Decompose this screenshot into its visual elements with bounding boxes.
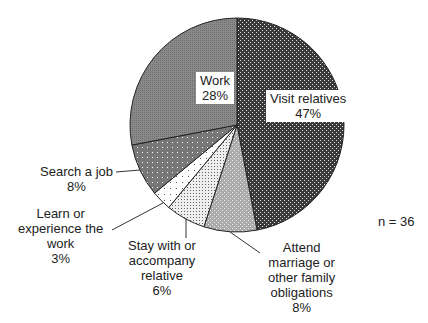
label-value: 3% bbox=[18, 251, 103, 266]
label-visit-relatives: Visit relatives 47% bbox=[266, 90, 350, 122]
label-text: Search a job bbox=[40, 164, 113, 179]
label-text: Work bbox=[200, 73, 230, 88]
label-work: Work 28% bbox=[196, 72, 234, 104]
label-value: 6% bbox=[128, 283, 196, 298]
leader-learn bbox=[112, 203, 163, 230]
label-search-job: Search a job 8% bbox=[40, 164, 113, 194]
label-text: Stay with or bbox=[128, 238, 196, 253]
label-stay-relative: Stay with or accompany relative 6% bbox=[128, 238, 196, 298]
leader-attend bbox=[230, 232, 260, 253]
label-text: Learn or bbox=[18, 206, 103, 221]
label-text: accompany bbox=[128, 253, 196, 268]
label-text: work bbox=[18, 236, 103, 251]
slice-visit-relatives bbox=[237, 18, 344, 230]
label-value: 8% bbox=[40, 179, 113, 194]
label-text: experience the bbox=[18, 221, 103, 236]
label-text: other family bbox=[268, 270, 335, 285]
label-attend-marriage: Attend marriage or other family obligati… bbox=[268, 240, 335, 315]
label-text: Attend bbox=[268, 240, 335, 255]
label-learn-work: Learn or experience the work 3% bbox=[18, 206, 103, 266]
label-value: 8% bbox=[268, 300, 335, 315]
label-text: marriage or bbox=[268, 255, 335, 270]
label-value: 47% bbox=[270, 106, 346, 121]
pie-chart bbox=[0, 0, 428, 323]
leader-search bbox=[116, 170, 140, 172]
label-text: obligations bbox=[268, 285, 335, 300]
label-text: Visit relatives bbox=[270, 91, 346, 106]
label-text: relative bbox=[128, 268, 196, 283]
sample-size-note: n = 36 bbox=[378, 214, 415, 229]
label-value: 28% bbox=[200, 88, 230, 103]
